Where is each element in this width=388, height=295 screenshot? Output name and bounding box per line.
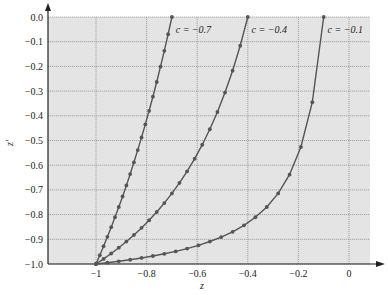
data-point-marker — [159, 65, 163, 69]
data-point-marker — [102, 244, 106, 248]
y-axis-arrow-icon — [45, 3, 51, 11]
data-point-marker — [147, 218, 151, 222]
data-point-marker — [136, 148, 140, 152]
data-point-marker — [223, 91, 227, 95]
y-tick-label: −0.8 — [25, 209, 43, 220]
y-tick-label: −0.1 — [25, 36, 43, 47]
series-label: c = −0.1 — [327, 24, 362, 35]
data-point-marker — [105, 261, 109, 265]
y-axis-label: z' — [4, 139, 15, 147]
data-point-marker — [265, 205, 269, 209]
series-labels: c = −0.7c = −0.4c = −0.1 — [176, 24, 363, 35]
y-tick-label: −0.9 — [25, 234, 43, 245]
series-label: c = −0.7 — [176, 24, 212, 35]
data-point-marker — [140, 226, 144, 230]
data-point-marker — [238, 44, 242, 48]
data-point-marker — [113, 215, 117, 219]
chart-container: −1−0.8−0.6−0.4−0.200.0−0.1−0.2−0.3−0.4−0… — [0, 0, 388, 295]
line-chart: −1−0.8−0.6−0.4−0.200.0−0.1−0.2−0.3−0.4−0… — [0, 0, 388, 295]
data-point-marker — [242, 223, 246, 227]
x-tick-label: −1 — [91, 268, 102, 279]
data-point-marker — [140, 256, 144, 260]
data-point-marker — [185, 247, 189, 251]
data-point-marker — [170, 15, 174, 19]
y-tick-label: −0.5 — [25, 135, 43, 146]
data-point-marker — [162, 49, 166, 53]
data-point-marker — [109, 225, 113, 229]
y-tick-label: 0.0 — [31, 12, 44, 23]
data-point-marker — [102, 257, 106, 261]
data-point-marker — [147, 109, 151, 113]
data-point-marker — [200, 143, 204, 147]
data-point-marker — [143, 122, 147, 126]
data-point-marker — [193, 157, 197, 161]
x-axis-arrow-icon — [376, 261, 385, 267]
data-point-marker — [140, 136, 144, 140]
data-point-marker — [98, 253, 102, 257]
data-point-marker — [178, 181, 182, 185]
x-tick-label: −0.2 — [289, 268, 307, 279]
data-point-marker — [117, 205, 121, 209]
data-point-marker — [216, 110, 220, 114]
data-point-marker — [208, 240, 212, 244]
data-point-marker — [132, 160, 136, 164]
data-point-marker — [94, 262, 98, 266]
data-point-marker — [128, 172, 132, 176]
data-point-marker — [253, 215, 257, 219]
data-point-marker — [124, 240, 128, 244]
data-point-marker — [105, 235, 109, 239]
data-point-marker — [117, 246, 121, 250]
data-point-marker — [322, 15, 326, 19]
data-point-marker — [276, 192, 280, 196]
y-tick-label: −0.2 — [25, 61, 43, 72]
data-point-marker — [246, 15, 250, 19]
data-point-marker — [310, 100, 314, 104]
data-point-marker — [151, 95, 155, 99]
data-point-marker — [124, 184, 128, 188]
x-tick-label: −0.8 — [138, 268, 156, 279]
data-point-marker — [121, 194, 125, 198]
y-tick-label: −0.6 — [25, 160, 43, 171]
data-point-marker — [155, 80, 159, 84]
data-point-marker — [299, 145, 303, 149]
data-point-marker — [208, 127, 212, 131]
data-point-marker — [170, 192, 174, 196]
data-point-marker — [174, 249, 178, 253]
data-point-marker — [132, 233, 136, 237]
data-point-marker — [117, 259, 121, 263]
data-point-marker — [219, 235, 223, 239]
data-point-marker — [197, 243, 201, 247]
y-tick-label: −0.7 — [25, 184, 43, 195]
x-tick-label: 0 — [347, 268, 352, 279]
y-tick-label: −0.4 — [25, 110, 43, 121]
x-axis-label: z — [199, 280, 204, 291]
data-point-marker — [166, 32, 170, 36]
data-point-marker — [231, 69, 235, 73]
data-point-marker — [128, 258, 132, 262]
data-point-marker — [162, 252, 166, 256]
data-point-marker — [109, 252, 113, 256]
data-point-marker — [288, 173, 292, 177]
y-tick-label: −1.0 — [25, 259, 43, 270]
data-point-marker — [185, 169, 189, 173]
data-point-marker — [151, 254, 155, 258]
data-point-marker — [155, 210, 159, 214]
x-tick-label: −0.4 — [239, 268, 257, 279]
data-point-marker — [231, 230, 235, 234]
x-tick-label: −0.6 — [188, 268, 206, 279]
series-label: c = −0.4 — [252, 24, 287, 35]
y-tick-label: −0.3 — [25, 86, 43, 97]
data-point-marker — [162, 201, 166, 205]
